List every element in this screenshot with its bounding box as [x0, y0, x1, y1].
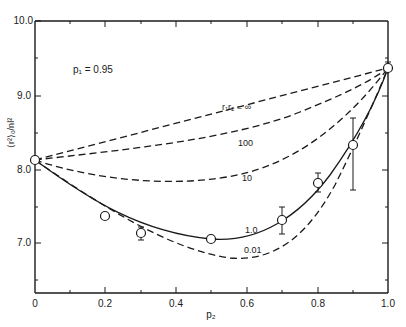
y-tick-label: 7.0: [17, 237, 31, 248]
experimental-points: [31, 64, 393, 244]
x-axis-label: p₂: [206, 309, 216, 320]
data-point: [31, 156, 40, 165]
x-tick-label: 0.6: [240, 298, 254, 309]
y-tick-label: 8.0: [17, 164, 31, 175]
x-tick-label: 0: [32, 298, 38, 309]
x-tick-label: 1.0: [381, 298, 395, 309]
curve-r1r2-0.01: [35, 68, 388, 258]
data-point: [278, 216, 287, 225]
data-point: [314, 179, 323, 188]
y-tick-label: 10.0: [14, 15, 34, 26]
x-tick-label: 0.2: [98, 298, 112, 309]
curve-label-0.01: 0.01: [244, 245, 262, 255]
data-point: [384, 64, 393, 73]
curve-r1r2-1: [35, 68, 388, 239]
y-axis-label: ⟨r²⟩₀/nl²: [6, 118, 16, 148]
curve-r1r2-infinity: [35, 68, 388, 160]
y-tick-labels: 7.0 8.0 9.0 10.0: [14, 15, 34, 248]
x-tick-label: 0.4: [169, 298, 183, 309]
y-tick-label: 9.0: [17, 90, 31, 101]
plot-frame: [35, 21, 388, 293]
curve-label-10: 10: [242, 173, 252, 183]
data-point: [349, 141, 358, 150]
curve-label-100: 100: [238, 138, 253, 148]
curve-label-1: 1.0: [245, 225, 258, 235]
p1-annotation: p₁ = 0.95: [73, 64, 113, 75]
curve-r1r2-10: [35, 68, 388, 181]
x-ticks: [70, 21, 353, 293]
x-tick-label: 0.8: [311, 298, 325, 309]
curve-label-infinity: r₁r₂ = ∞: [222, 102, 251, 112]
data-point: [137, 229, 146, 238]
chart: 0 0.2 0.4 0.6 0.8 1.0 7.0 8.0 9.0 10.0 p…: [0, 0, 406, 327]
error-bars: [138, 62, 391, 240]
x-tick-labels: 0 0.2 0.4 0.6 0.8 1.0: [32, 298, 395, 309]
data-point: [207, 235, 216, 244]
data-point: [101, 212, 110, 221]
